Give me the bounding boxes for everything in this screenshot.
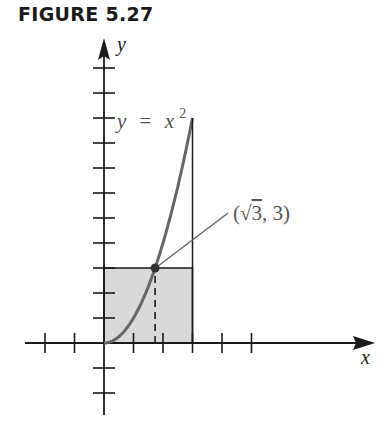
- x-axis-label: x: [360, 346, 370, 368]
- axes: [25, 38, 375, 415]
- highlighted-point-dot: [151, 264, 160, 273]
- shaded-region: [104, 268, 193, 343]
- y-axis-label: y: [115, 33, 126, 56]
- shaded-rectangle: [104, 268, 193, 343]
- curve-label: y = x 2: [115, 106, 186, 133]
- point-label: (√3, 3): [233, 201, 290, 225]
- plot-area: y x y = x 2 (√3, 3): [0, 0, 388, 433]
